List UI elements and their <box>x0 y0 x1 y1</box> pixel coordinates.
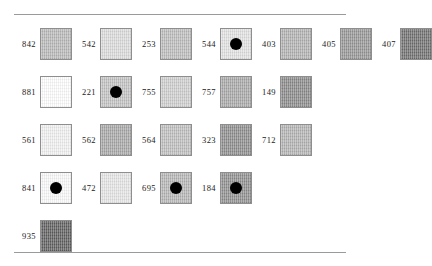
marker-dot-icon <box>50 182 62 194</box>
color-swatch[interactable] <box>160 124 192 156</box>
marker-dot-icon <box>110 86 122 98</box>
color-swatch[interactable] <box>100 172 132 204</box>
swatch-label: 842 <box>12 40 40 49</box>
color-swatch[interactable] <box>220 28 252 60</box>
swatch-cell[interactable]: 561 <box>12 124 72 156</box>
swatch-row: 561562564323712 <box>0 116 360 164</box>
swatch-cell[interactable]: 564 <box>132 124 192 156</box>
swatch-label: 221 <box>72 88 100 97</box>
bottom-divider-rule <box>14 252 346 253</box>
swatch-label: 712 <box>252 136 280 145</box>
color-swatch[interactable] <box>40 220 72 252</box>
color-swatch[interactable] <box>280 124 312 156</box>
swatch-cell[interactable]: 841 <box>12 172 72 204</box>
swatch-label: 564 <box>132 136 160 145</box>
swatch-cell[interactable]: 544 <box>192 28 252 60</box>
color-swatch[interactable] <box>40 124 72 156</box>
color-swatch[interactable] <box>160 172 192 204</box>
top-divider-rule <box>14 14 346 15</box>
swatch-label: 695 <box>132 184 160 193</box>
swatch-cell[interactable]: 405 <box>312 28 372 60</box>
swatch-label: 841 <box>12 184 40 193</box>
swatch-rows-container: 8425422535444034054078812217557571495615… <box>0 20 360 260</box>
swatch-cell[interactable]: 842 <box>12 28 72 60</box>
color-swatch[interactable] <box>400 28 432 60</box>
swatch-label: 544 <box>192 40 220 49</box>
swatch-cell[interactable]: 323 <box>192 124 252 156</box>
color-swatch[interactable] <box>220 172 252 204</box>
swatch-label: 405 <box>312 40 340 49</box>
swatch-cell[interactable]: 881 <box>12 76 72 108</box>
color-swatch[interactable] <box>340 28 372 60</box>
color-swatch[interactable] <box>220 76 252 108</box>
swatch-label: 253 <box>132 40 160 49</box>
swatch-cell[interactable]: 221 <box>72 76 132 108</box>
swatch-label: 472 <box>72 184 100 193</box>
swatch-label: 323 <box>192 136 220 145</box>
swatch-row: 841472695184 <box>0 164 360 212</box>
swatch-row: 842542253544403405407 <box>0 20 360 68</box>
swatch-cell[interactable]: 184 <box>192 172 252 204</box>
swatch-cell[interactable]: 757 <box>192 76 252 108</box>
swatch-label: 184 <box>192 184 220 193</box>
swatch-label: 757 <box>192 88 220 97</box>
swatch-label: 881 <box>12 88 40 97</box>
color-swatch[interactable] <box>160 28 192 60</box>
swatch-cell[interactable]: 562 <box>72 124 132 156</box>
swatch-cell[interactable]: 542 <box>72 28 132 60</box>
swatch-cell[interactable]: 407 <box>372 28 432 60</box>
swatch-cell[interactable]: 149 <box>252 76 312 108</box>
swatch-label: 542 <box>72 40 100 49</box>
color-swatch[interactable] <box>160 76 192 108</box>
swatch-label: 149 <box>252 88 280 97</box>
swatch-cell[interactable]: 695 <box>132 172 192 204</box>
color-swatch[interactable] <box>40 28 72 60</box>
swatch-row: 881221755757149 <box>0 68 360 116</box>
swatch-cell[interactable]: 935 <box>12 220 72 252</box>
marker-dot-icon <box>170 182 182 194</box>
color-swatch[interactable] <box>100 28 132 60</box>
swatch-cell[interactable]: 472 <box>72 172 132 204</box>
color-swatch[interactable] <box>40 76 72 108</box>
color-swatch[interactable] <box>100 76 132 108</box>
marker-dot-icon <box>230 182 242 194</box>
marker-dot-icon <box>230 38 242 50</box>
swatch-label: 561 <box>12 136 40 145</box>
color-swatch[interactable] <box>220 124 252 156</box>
swatch-cell[interactable]: 403 <box>252 28 312 60</box>
color-swatch[interactable] <box>280 76 312 108</box>
swatch-cell[interactable]: 712 <box>252 124 312 156</box>
swatch-label: 407 <box>372 40 400 49</box>
swatch-label: 562 <box>72 136 100 145</box>
color-swatch[interactable] <box>40 172 72 204</box>
swatch-label: 755 <box>132 88 160 97</box>
swatch-cell[interactable]: 253 <box>132 28 192 60</box>
color-swatch[interactable] <box>100 124 132 156</box>
color-swatch[interactable] <box>280 28 312 60</box>
swatch-label: 935 <box>12 232 40 241</box>
swatch-label: 403 <box>252 40 280 49</box>
swatch-cell[interactable]: 755 <box>132 76 192 108</box>
